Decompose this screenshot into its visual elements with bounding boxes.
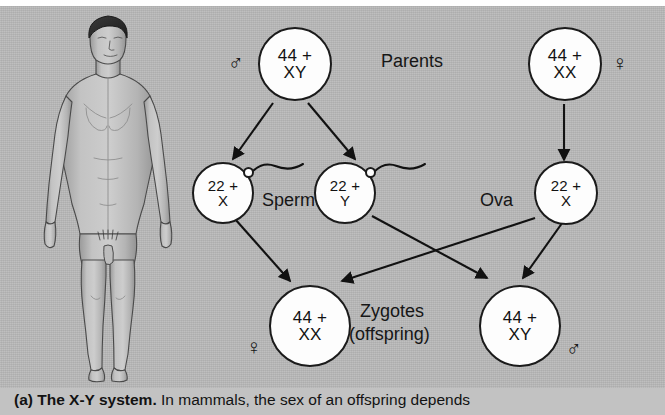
ovum-cell: 22 + X	[534, 161, 598, 225]
zygote-male-sex-chromosomes: XY	[508, 326, 531, 343]
parents-label: Parents	[381, 51, 443, 72]
sperm-x-autosomes: 22 +	[208, 178, 238, 193]
caption-bold-lead: (a) The X-Y system.	[14, 391, 157, 408]
father-autosomes: 44 +	[278, 47, 312, 64]
diagram-canvas: 44 + XY ♂ 44 + XX ♀ Parents 22 + X 22 + …	[0, 6, 665, 388]
female-symbol-zygote: ♀	[246, 336, 262, 357]
zygote-male-cell: 44 + XY	[479, 285, 561, 367]
zygote-male-autosomes: 44 +	[503, 309, 537, 326]
sperm-y-autosomes: 22 +	[330, 178, 360, 193]
caption-rest: In mammals, the sex of an offspring depe…	[157, 391, 470, 408]
arrow-ovum-to-zygote-xy	[523, 219, 565, 278]
male-symbol-father: ♂	[228, 52, 244, 73]
father-cell: 44 + XY	[258, 27, 332, 101]
ovum-autosomes: 22 +	[551, 178, 581, 193]
female-symbol-mother: ♀	[612, 52, 628, 73]
arrow-sperm-y-to-zygote-xy	[372, 216, 487, 278]
zygote-female-cell: 44 + XX	[269, 285, 351, 367]
sperm-x-sex-chromosome: X	[218, 193, 228, 208]
arrow-sperm-x-to-zygote-xx	[235, 219, 290, 281]
sperm-y-sex-chromosome: Y	[340, 193, 350, 208]
father-sex-chromosomes: XY	[283, 64, 306, 81]
mother-autosomes: 44 +	[548, 47, 582, 64]
ovum-sex-chromosome: X	[561, 193, 571, 208]
zygotes-label-line2: (offspring)	[349, 324, 430, 345]
arrow-father-to-sperm-y	[308, 103, 355, 159]
sperm-x-acrosome	[243, 167, 254, 178]
figure-caption: (a) The X-Y system. In mammals, the sex …	[0, 388, 665, 415]
caption-text: (a) The X-Y system. In mammals, the sex …	[14, 391, 470, 409]
sperm-label: Sperm	[262, 190, 315, 211]
sperm-x-flagellum	[251, 164, 303, 173]
sperm-y-flagellum	[373, 164, 425, 173]
sperm-y-acrosome	[365, 167, 376, 178]
figure-panel: 44 + XY ♂ 44 + XX ♀ Parents 22 + X 22 + …	[0, 0, 665, 415]
zygote-female-sex-chromosomes: XX	[298, 326, 321, 343]
ova-label: Ova	[480, 190, 513, 211]
male-symbol-zygote: ♂	[566, 338, 582, 359]
mother-sex-chromosomes: XX	[553, 64, 576, 81]
arrow-father-to-sperm-x	[233, 103, 273, 159]
zygotes-label-line1: Zygotes	[360, 301, 424, 322]
arrow-ovum-to-zygote-xx	[342, 218, 535, 281]
mother-cell: 44 + XX	[528, 27, 602, 101]
zygote-female-autosomes: 44 +	[293, 309, 327, 326]
